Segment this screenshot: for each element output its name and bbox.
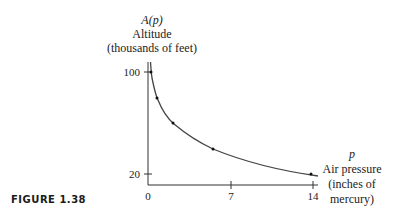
y-axis-title: Altitude xyxy=(132,27,171,41)
x-tick-label-14: 14 xyxy=(308,190,320,202)
chart: A(p) Altitude (thousands of feet) 100 20… xyxy=(0,0,403,222)
x-tick-label-0: 0 xyxy=(145,190,151,202)
y-axis-units: (thousands of feet) xyxy=(107,41,197,55)
axes xyxy=(144,62,318,189)
data-point xyxy=(172,122,175,125)
x-axis-name: p xyxy=(348,147,355,161)
x-axis-title: Air pressure xyxy=(323,162,382,176)
data-point xyxy=(150,71,153,74)
data-points xyxy=(150,71,313,176)
data-point xyxy=(156,97,159,100)
figure-caption: FIGURE 1.38 xyxy=(11,194,86,205)
x-tick-label-7: 7 xyxy=(228,190,234,202)
x-axis-units-line2: mercury) xyxy=(330,192,374,206)
altitude-curve xyxy=(151,62,319,176)
y-tick-label-20: 20 xyxy=(129,168,141,180)
data-point xyxy=(212,148,215,151)
y-tick-label-100: 100 xyxy=(124,66,141,78)
data-point xyxy=(310,173,313,176)
x-axis-units-line1: (inches of xyxy=(328,177,376,191)
y-axis-name: A(p) xyxy=(140,13,162,27)
